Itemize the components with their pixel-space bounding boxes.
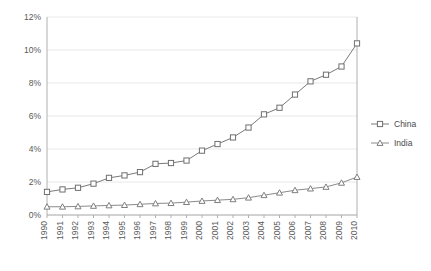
x-tick-label: 1991 [55,221,65,240]
line-chart: 0%2%4%6%8%10%12% 19901991199219931994199… [0,0,431,271]
legend-marker-square [377,121,382,126]
x-tick-label: 1990 [39,221,49,240]
x-tick-label: 2000 [194,221,204,240]
x-tick-label: 1998 [163,221,173,240]
data-point-marker [354,41,359,46]
chart-svg: 0%2%4%6%8%10%12% 19901991199219931994199… [0,0,431,271]
x-tick-label: 1994 [101,221,111,240]
x-tick-label: 2004 [256,221,266,240]
data-point-marker [230,135,235,140]
x-tick-label: 1992 [70,221,80,240]
y-tick-label: 8% [29,78,42,88]
y-tick-label: 0% [29,210,42,220]
x-tick-label: 1999 [179,221,189,240]
x-tick-label: 2001 [210,221,220,240]
y-tick-label: 12% [24,12,41,22]
x-tick-label: 1996 [132,221,142,240]
x-tick-label: 1993 [86,221,96,240]
data-point-marker [75,185,80,190]
data-point-marker [106,175,111,180]
data-point-marker [137,170,142,175]
data-point-marker [91,181,96,186]
data-point-marker [215,141,220,146]
data-point-marker [122,173,127,178]
x-tick-label: 2006 [287,221,297,240]
chart-legend: ChinaIndia [371,119,416,148]
series-layer [44,41,360,209]
data-point-marker [60,187,65,192]
data-point-marker [323,72,328,77]
x-tick-label: 2008 [318,221,328,240]
x-tick-label: 2009 [334,221,344,240]
x-tick-label: 2002 [225,221,235,240]
x-tick-label: 1995 [117,221,127,240]
y-tick-label: 10% [24,45,41,55]
y-axis-tick-labels: 0%2%4%6%8%10%12% [24,12,41,220]
series-line-china [47,43,357,192]
x-tick-label: 2010 [349,221,359,240]
legend-label-china: China [394,119,416,129]
y-tick-label: 2% [29,177,42,187]
x-tick-label: 2007 [303,221,313,240]
data-point-marker [354,174,360,179]
x-tick-label: 2003 [241,221,251,240]
data-point-marker [292,92,297,97]
data-point-marker [261,112,266,117]
data-point-marker [168,160,173,165]
data-point-marker [153,161,158,166]
legend-label-india: India [394,138,413,148]
x-axis-tick-labels: 1990199119921993199419951996199719981999… [39,215,359,240]
y-tick-label: 6% [29,111,42,121]
data-point-marker [277,105,282,110]
x-tick-label: 1997 [148,221,158,240]
data-point-marker [199,148,204,153]
data-point-marker [246,125,251,130]
data-point-marker [44,189,49,194]
data-point-marker [184,158,189,163]
x-tick-label: 2005 [272,221,282,240]
data-point-marker [339,64,344,69]
y-tick-label: 4% [29,144,42,154]
data-point-marker [308,79,313,84]
